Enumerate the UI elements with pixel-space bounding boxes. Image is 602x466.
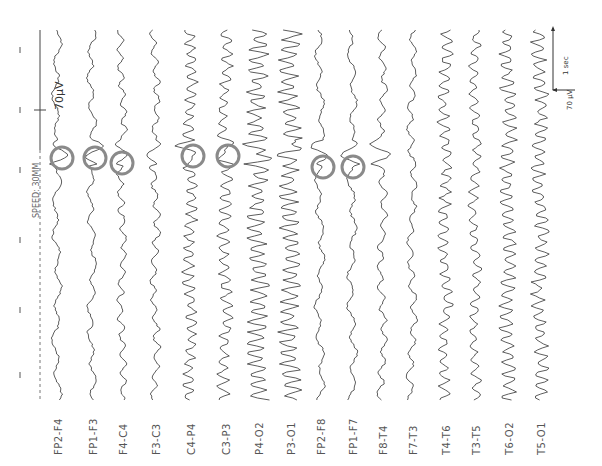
trace-f4-c4 [115,30,127,400]
calibration-marks [34,26,575,400]
calibration-label: 70μV [53,81,66,110]
channel-label: C3-P3 [221,423,232,455]
scale-amplitude-label: 70 μV [566,110,586,118]
channel-label: T4-T6 [441,425,452,455]
spike-circle [312,156,334,178]
trace-c3-p3 [217,30,234,400]
channel-label: T5-O1 [536,422,547,455]
eeg-tracing [0,0,602,466]
channel-traces [50,30,550,400]
spike-circle [182,145,204,167]
spike-circle [111,152,133,174]
trace-fp2-f8 [311,30,328,400]
spike-circle [217,145,239,167]
trace-t3-t5 [468,30,482,400]
trace-t6-o2 [499,30,518,400]
channel-label: FP2-F4 [53,418,64,455]
trace-fp1-f7 [341,30,360,400]
channel-label: C4-P4 [186,423,197,455]
trace-f8-t4 [370,30,391,400]
trace-f3-c3 [147,30,161,400]
trace-t4-t6 [437,30,453,400]
trace-p4-o2 [243,30,272,400]
trace-p3-o1 [277,30,302,400]
trace-c4-p4 [175,30,198,400]
channel-label: F7-T3 [408,425,419,455]
scale-amplitude-text: 70 μV [566,90,574,110]
scale-time-label: 1 sec [562,75,580,83]
channel-label: T3-T5 [471,425,482,455]
channel-label: T6-O2 [504,422,515,455]
trace-f7-t3 [406,30,417,400]
channel-label: P3-O1 [286,422,297,455]
speed-label: SPEED: 30MM [32,163,41,218]
channel-label: F4-C4 [118,423,129,455]
channel-label: F3-C3 [151,423,162,455]
channel-label: FP2-F8 [316,418,327,455]
channel-label: FP1-F7 [348,418,359,455]
trace-t5-o1 [530,30,549,400]
channel-label: F8-T4 [378,425,389,455]
spike-circle [84,147,106,169]
trace-fp1-f3 [86,30,104,400]
channel-label: FP1-F3 [88,418,99,455]
scale-time-text: 1 sec [562,57,570,75]
channel-label: P4-O2 [254,422,265,455]
